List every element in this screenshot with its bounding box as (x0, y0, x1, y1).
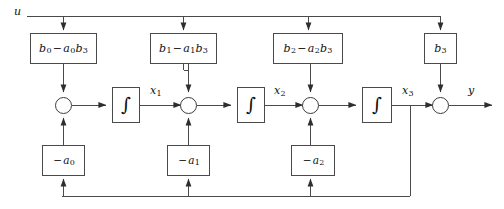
block-b2-minus-a2b3: b2−a2b3 (273, 33, 343, 64)
block-neg-a0: −a0 (42, 145, 85, 176)
block-b1-minus-a1b3: b1−a1b3 (150, 33, 217, 64)
sum-junction-output (432, 97, 449, 114)
signal-label-x3: x3 (402, 84, 414, 98)
block-b0-label: b0−a0b3 (39, 42, 88, 56)
integral-icon: ∫ (246, 95, 256, 114)
integrator-2: ∫ (237, 87, 265, 123)
sum-junction-1 (55, 97, 72, 114)
block-neg-a2: −a2 (291, 145, 335, 176)
integrator-1: ∫ (112, 87, 140, 123)
integral-icon: ∫ (121, 95, 131, 114)
block-neg-a0-label: −a0 (52, 154, 75, 168)
signal-label-u: u (14, 5, 21, 18)
block-b1-label: b1−a1b3 (159, 42, 208, 56)
block-b3: b3 (424, 33, 457, 64)
block-diagram-figure: b0−a0b3 b1−a1b3 b2−a2b3 b3 ∫ ∫ ∫ −a0 −a1… (0, 0, 504, 209)
integrator-3: ∫ (362, 87, 392, 123)
sum-junction-3 (302, 97, 319, 114)
signal-label-x2: x2 (274, 84, 286, 98)
block-neg-a1-label: −a1 (177, 154, 200, 168)
block-b3-label: b3 (434, 42, 447, 56)
block-b2-label: b2−a2b3 (284, 42, 333, 56)
signal-label-x1: x1 (150, 84, 162, 98)
block-b0-minus-a0b3: b0−a0b3 (30, 33, 97, 64)
sum-junction-2 (180, 97, 197, 114)
integral-icon: ∫ (372, 95, 382, 114)
block-neg-a1: −a1 (167, 145, 210, 176)
signal-label-y: y (468, 84, 474, 97)
block-neg-a2-label: −a2 (301, 154, 324, 168)
